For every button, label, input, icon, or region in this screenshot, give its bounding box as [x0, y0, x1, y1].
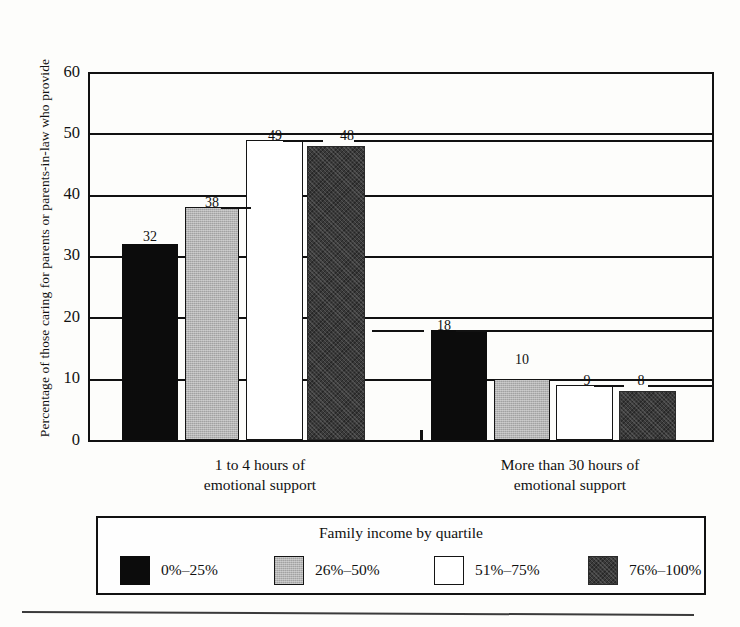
- x-category-label-0-line2: emotional support: [130, 475, 390, 495]
- gridline-40: [90, 195, 712, 197]
- leader-line-18-right: [456, 330, 712, 332]
- bar-group1-series0: [431, 330, 487, 440]
- y-tick-40: 40: [36, 186, 80, 203]
- x-category-label-0: 1 to 4 hours of emotional support: [130, 455, 390, 495]
- y-tick-10: 10: [36, 370, 80, 387]
- x-category-label-1: More than 30 hours of emotional support: [440, 455, 700, 495]
- value-label-49: 49: [255, 129, 295, 143]
- y-tick-20: 20: [36, 309, 80, 326]
- gridline-60: [90, 72, 712, 74]
- gridline-10: [90, 379, 712, 381]
- legend-title: Family income by quartile: [98, 524, 704, 542]
- legend-item-51-75[interactable]: 51%–75%: [434, 551, 540, 589]
- x-category-label-0-line1: 1 to 4 hours of: [130, 455, 390, 475]
- value-label-9: 9: [567, 374, 607, 388]
- bar-group1-series3: [619, 391, 676, 440]
- legend-label-51-75: 51%–75%: [475, 561, 540, 579]
- bar-group1-series1: [494, 379, 550, 440]
- legend-swatch-light-gray-icon: [274, 556, 304, 585]
- legend-swatch-black-icon: [120, 556, 150, 585]
- bar-group0-series3: [307, 146, 365, 440]
- bar-group1-series2: [556, 385, 613, 440]
- legend-item-26-50[interactable]: 26%–50%: [274, 551, 380, 589]
- y-tick-0: 0: [36, 432, 80, 449]
- bar-group0-series2: [246, 140, 303, 440]
- legend-label-0-25: 0%–25%: [161, 561, 218, 579]
- gridline-50: [90, 133, 712, 135]
- chart-page: Percentage of those caring for parents o…: [0, 0, 740, 627]
- y-tick-50: 50: [36, 125, 80, 142]
- legend-item-76-100[interactable]: 76%–100%: [588, 551, 701, 589]
- axis-mid-tick: [420, 430, 423, 442]
- bar-group0-series0: [122, 244, 178, 440]
- x-category-label-1-line2: emotional support: [440, 475, 700, 495]
- value-label-10: 10: [502, 353, 542, 367]
- leader-line-48: [354, 140, 712, 142]
- gridline-30: [90, 256, 712, 258]
- legend-items: 0%–25% 26%–50% 51%–75% 76%–100%: [98, 551, 704, 591]
- y-tick-60: 60: [36, 64, 80, 81]
- legend-label-76-100: 76%–100%: [629, 561, 701, 579]
- x-category-label-1-line1: More than 30 hours of: [440, 455, 700, 475]
- legend: Family income by quartile 0%–25% 26%–50%…: [96, 516, 706, 595]
- legend-swatch-white-icon: [434, 556, 464, 585]
- bar-group0-series1: [185, 207, 239, 440]
- legend-label-26-50: 26%–50%: [315, 561, 380, 579]
- value-label-38: 38: [192, 196, 232, 210]
- value-label-32: 32: [130, 230, 170, 244]
- y-tick-30: 30: [36, 247, 80, 264]
- plot-area: 32 38 49 48 18 10 9 8: [88, 72, 714, 442]
- leader-line-18-left: [372, 330, 424, 332]
- gridline-20: [90, 317, 712, 319]
- legend-item-0-25[interactable]: 0%–25%: [120, 551, 218, 589]
- value-label-8: 8: [621, 374, 661, 388]
- legend-swatch-dark-gray-icon: [588, 556, 618, 585]
- value-label-18: 18: [424, 319, 464, 333]
- value-label-48: 48: [327, 129, 367, 143]
